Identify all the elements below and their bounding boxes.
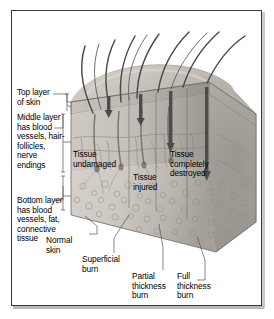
label-tissue-undamaged: Tissue undamaged [73,150,116,169]
label-partial-thickness-burn: Partial thickness burn [132,272,166,301]
label-middle-layer: Middle layer has blood vessels, hair- fo… [17,113,64,171]
connector-epidermis [67,105,71,107]
label-superficial-burn: Superficial burn [82,255,120,274]
label-top-layer-of-skin: Top layer of skin [17,88,50,107]
skin-burn-depth-figure: Top layer of skin Middle layer has blood… [0,0,274,319]
bracket-top-layer [65,94,69,111]
illustration-area: Top layer of skin Middle layer has blood… [11,10,262,306]
label-tissue-injured: Tissue injured [133,173,157,192]
figure-shadow-bottom [13,306,264,309]
label-tissue-completely-destroyed: Tissue completely destroyed [170,150,209,179]
skin-block [71,32,256,252]
figure-shadow-right [262,12,265,308]
label-normal-skin: Normal skin [46,236,72,255]
leader-top-layer [53,94,71,102]
label-full-thickness-burn: Full thickness burn [177,272,211,301]
